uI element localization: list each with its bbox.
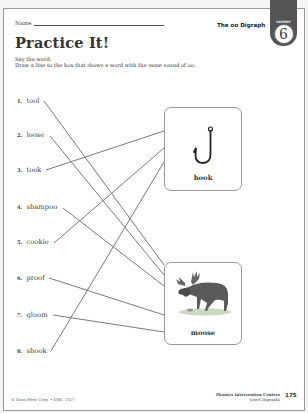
word-text: shampoo bbox=[26, 203, 57, 211]
word-text: proof bbox=[26, 274, 44, 282]
hook-label: hook bbox=[165, 174, 241, 182]
page-number: 175 bbox=[285, 392, 297, 398]
word-item-1[interactable]: 1.tool bbox=[17, 97, 40, 105]
series-subtitle: Vowel Digraphs bbox=[195, 397, 280, 402]
line-took-hook bbox=[46, 131, 164, 170]
copyright-text: © Evan-Moor Corp. • EMC 3327 bbox=[11, 397, 74, 402]
line-gloom-moose bbox=[53, 315, 164, 332]
line-proof-moose bbox=[49, 278, 164, 315]
word-item-8[interactable]: 8.shook bbox=[17, 347, 47, 355]
word-text: tool bbox=[26, 97, 39, 105]
moose-label: moose bbox=[165, 329, 241, 337]
word-item-3[interactable]: 3.took bbox=[17, 166, 41, 174]
word-item-4[interactable]: 4.shampoo bbox=[17, 203, 57, 211]
word-item-2[interactable]: 2.loose bbox=[17, 131, 44, 139]
word-text: shook bbox=[26, 347, 46, 355]
fish-hook-icon bbox=[165, 108, 243, 168]
word-text: gloom bbox=[26, 311, 47, 319]
moose-card[interactable]: moose bbox=[164, 262, 242, 345]
word-text: loose bbox=[26, 131, 44, 139]
line-tool-moose bbox=[44, 101, 164, 265]
word-text: took bbox=[26, 166, 41, 174]
word-item-5[interactable]: 5.cookie bbox=[17, 238, 49, 246]
line-loose-moose bbox=[50, 136, 164, 275]
word-text: cookie bbox=[26, 238, 48, 246]
word-item-6[interactable]: 6.proof bbox=[17, 274, 45, 282]
moose-illustration bbox=[165, 263, 243, 325]
series-info: Phonics Intervention Centers Vowel Digra… bbox=[195, 392, 280, 402]
hook-card[interactable]: hook bbox=[164, 107, 242, 191]
line-shook-hook bbox=[51, 162, 164, 351]
word-item-7[interactable]: 7.gloom bbox=[17, 311, 48, 319]
